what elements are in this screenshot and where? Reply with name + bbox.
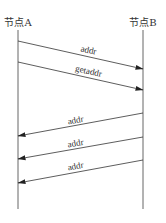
message-5: addr — [18, 160, 143, 183]
message-2: getaddr — [18, 62, 143, 90]
message-5-label: addr — [67, 160, 85, 173]
message-1-label: addr — [80, 43, 98, 56]
participant-a-label: 节点A — [4, 17, 32, 28]
sequence-diagram: 节点A 节点B addr getaddr addr addr addr — [0, 0, 166, 223]
message-4: addr — [18, 137, 143, 159]
participant-b-label: 节点B — [129, 17, 156, 28]
message-3: addr — [18, 113, 143, 136]
message-2-label: getaddr — [74, 63, 103, 79]
